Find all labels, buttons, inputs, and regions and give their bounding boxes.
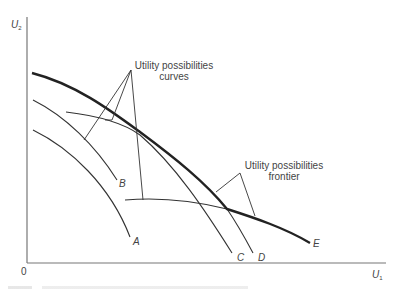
curve-e-start — [125, 199, 227, 209]
x-axis-label: U1 — [372, 269, 383, 284]
annotation-curves-line1: Utility possibilities — [126, 60, 222, 71]
curve-a — [33, 130, 130, 237]
utility-possibilities-diagram — [0, 0, 400, 292]
annotation-frontier-line2: frontier — [236, 171, 332, 182]
pointer-curves-b — [84, 70, 131, 140]
annotation-curves-line2: curves — [126, 71, 222, 82]
curve-label-a: A — [133, 236, 140, 247]
curve-b — [33, 100, 117, 180]
curve-label-c: C — [237, 252, 244, 263]
curve-label-b: B — [119, 178, 126, 189]
annotation-curves: Utility possibilities curves — [126, 60, 222, 82]
curve-label-d: D — [258, 252, 265, 263]
curve-c — [66, 112, 232, 253]
annotation-frontier-line1: Utility possibilities — [236, 160, 332, 171]
utility-frontier — [32, 73, 310, 243]
pointer-curves-e — [131, 70, 143, 200]
origin-label: 0 — [21, 266, 27, 277]
cropped-caption — [8, 286, 248, 289]
y-axis-label: U2 — [11, 19, 22, 34]
curve-label-e: E — [313, 238, 320, 249]
annotation-frontier: Utility possibilities frontier — [236, 160, 332, 182]
